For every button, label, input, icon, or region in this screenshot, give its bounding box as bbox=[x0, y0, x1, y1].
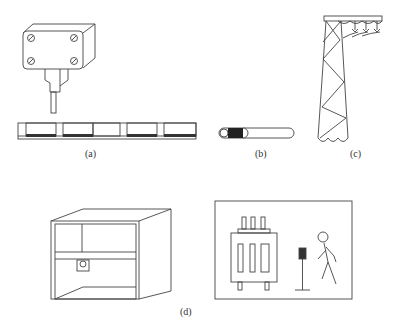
panel-label-a: (a) bbox=[85, 148, 96, 159]
sensing-strip-icon bbox=[18, 123, 196, 139]
panel-label-b: (b) bbox=[255, 148, 267, 159]
panel-label-d: (d) bbox=[180, 306, 192, 317]
person-icon bbox=[318, 232, 336, 284]
sensor-box-icon bbox=[23, 24, 95, 113]
panel-label-c: (c) bbox=[350, 148, 361, 159]
cabinet-icon bbox=[51, 209, 171, 299]
scene-frame bbox=[215, 201, 352, 299]
cable-icon bbox=[219, 128, 294, 138]
figure-canvas bbox=[0, 0, 397, 325]
transformer-icon bbox=[231, 217, 277, 290]
sensor-stand-icon bbox=[295, 248, 310, 290]
transmission-tower-icon bbox=[318, 16, 382, 142]
